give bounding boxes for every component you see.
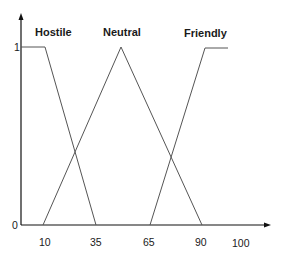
y-tick-0: 0 <box>12 219 18 231</box>
membership-function-chart <box>0 0 285 255</box>
x-tick-90: 90 <box>195 236 207 248</box>
x-tick-35: 35 <box>90 236 102 248</box>
x-tick-100: 100 <box>232 237 250 249</box>
y-tick-1: 1 <box>14 41 20 53</box>
friendly-label: Friendly <box>184 27 227 39</box>
y-axis-arrow-icon <box>19 13 24 20</box>
x-axis-arrow-icon <box>264 223 271 228</box>
hostile-label: Hostile <box>35 26 72 38</box>
x-tick-10: 10 <box>39 236 51 248</box>
neutral-label: Neutral <box>103 26 141 38</box>
x-tick-65: 65 <box>143 236 155 248</box>
hostile-curve <box>21 47 96 225</box>
